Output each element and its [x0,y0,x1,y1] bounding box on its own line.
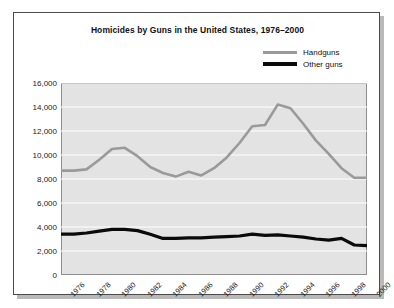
handguns-line-swatch-icon [263,51,297,54]
y-tick-label: 0 [53,271,57,280]
y-tick-label: 8,000 [37,175,57,184]
x-tick-label: 2000 [374,280,392,298]
series-line-handguns [61,105,367,178]
legend-label-handguns: Handguns [303,48,365,57]
legend-item-other-guns: Other guns [215,58,365,70]
y-tick-label: 16,000 [33,79,57,88]
other-guns-line-swatch-icon [263,62,297,66]
page-title: Homicides by Guns in the United States, … [14,25,381,35]
legend-label-other-guns: Other guns [303,60,365,69]
chart-figure: Homicides by Guns in the United States, … [13,12,380,295]
y-tick-label: 14,000 [33,103,57,112]
y-tick-label: 12,000 [33,127,57,136]
y-tick-label: 4,000 [37,223,57,232]
y-tick-label: 6,000 [37,199,57,208]
legend-item-handguns: Handguns [215,46,365,58]
chart-legend: Handguns Other guns [215,46,365,70]
y-tick-label: 2,000 [37,247,57,256]
series-lines [61,83,367,275]
y-tick-label: 10,000 [33,151,57,160]
series-line-other-guns [61,229,367,245]
plot-wrapper: 02,0004,0006,0008,00010,00012,00014,0001… [61,83,367,275]
